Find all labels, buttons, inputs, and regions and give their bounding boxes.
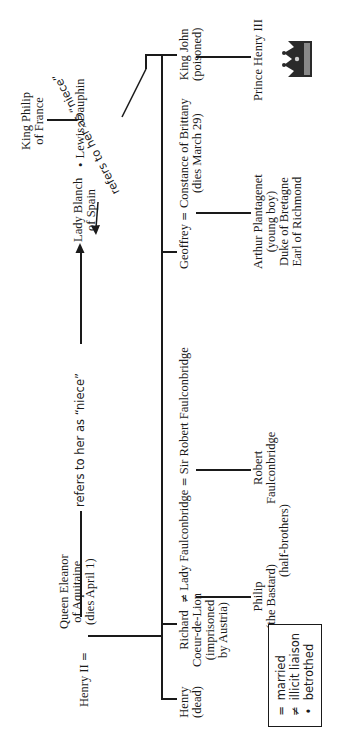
node-richard: Richard Coeur-de-Lion (imprisoned by Aus… [178,593,230,667]
node-lady-faulconbridge: ≠ Lady Faulconbridge = Sir Robert Faulco… [178,347,191,603]
betrothed-symbol-icon: • [302,704,316,718]
node-arthur: Arthur Plantagenet (young boy) Duke of B… [252,174,304,269]
legend-box: = married ≠ illicit liaison • betrothed [268,624,322,727]
node-half-brothers: (half-brothers) [278,504,291,577]
node-geoffrey: Geoffrey = [178,212,191,269]
family-tree-diagram: Henry II = Queen Eleanor of Aquitaine (d… [0,0,360,729]
arrowhead-icon [76,243,85,253]
node-philip-bastard: Philip (the Bastard) [252,564,278,629]
node-king-philip: King Philip of France [20,92,46,150]
node-queen-eleanor: Queen Eleanor of Aquitaine (dies April 1… [58,554,97,629]
node-king-john: King John (poisoned) [178,28,204,81]
legend-row-illicit: ≠ illicit liaison [288,633,302,718]
node-prince-henry-iii: Prince Henry III [252,19,265,101]
node-constance: Constance of Brittany (dies March 29) [178,98,204,208]
node-henry-ii: Henry II = [78,652,91,707]
legend-row-betrothed: • betrothed [302,633,316,718]
illicit-symbol-icon: ≠ [288,704,302,718]
node-robert-faulconbridge: Robert Faulconbridge [252,432,278,504]
legend-row-married: = married [274,633,288,718]
crown-icon [280,37,316,81]
annotation-eleanor-niece: refers to her as “niece” [73,373,87,507]
node-lady-blanch: Lady Blanch of Spain [72,178,98,242]
node-henry-dead: Henry (dead) [178,686,204,718]
married-symbol-icon: = [274,704,288,718]
